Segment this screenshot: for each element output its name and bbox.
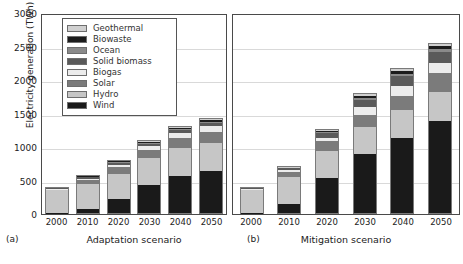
stacked-bar: [315, 129, 339, 214]
bar-group: [353, 15, 377, 214]
bar-segment-hydro: [429, 92, 451, 121]
bar-segment-hydro: [200, 143, 222, 171]
x-tick-label: 2020: [315, 217, 339, 229]
panel-a-title: Adaptation scenario: [41, 234, 227, 245]
x-tick-label: 2030: [138, 217, 162, 229]
bar-segment-solar: [391, 96, 413, 110]
bar-segment-solar: [354, 115, 376, 127]
bar-group: [240, 15, 264, 214]
bar-segment-biogas: [354, 107, 376, 115]
bar-segment-hydro: [169, 148, 191, 176]
legend-swatch-icon: [67, 25, 87, 32]
x-tick-label: 2050: [429, 217, 453, 229]
stacked-bar: [277, 166, 301, 214]
bar-segment-hydro: [278, 177, 300, 204]
bar-segment-hydro: [316, 151, 338, 178]
stacked-bar: [240, 187, 264, 214]
stacked-bar: [107, 160, 131, 214]
bar-segment-hydro: [241, 190, 263, 213]
bar-group: [428, 15, 452, 214]
legend-swatch-icon: [67, 102, 87, 109]
y-tick-label: 2000: [3, 76, 37, 86]
bar-segment-solar: [169, 138, 191, 148]
y-tick-label: 0: [3, 210, 37, 220]
legend-label: Biowaste: [93, 34, 132, 45]
bar-segment-solar: [429, 73, 451, 92]
legend-swatch-icon: [67, 36, 87, 43]
figure-stacked-bar-chart: Electricity generation (TWh) 05001000150…: [0, 0, 463, 264]
legend-label: Hydro: [93, 89, 118, 100]
x-tick-label: 2000: [45, 217, 69, 229]
y-tick-label: 1000: [3, 143, 37, 153]
bar-group: [199, 15, 223, 214]
bar-segment-wind: [138, 185, 160, 213]
legend-label: Solar: [93, 78, 115, 89]
bar-segment-wind: [391, 138, 413, 213]
legend-item: Solid biomass: [67, 56, 171, 67]
bar-segment-solar: [200, 132, 222, 143]
x-tick-label: 2020: [107, 217, 131, 229]
legend-item: Wind: [67, 100, 171, 111]
x-tick-label: 2000: [239, 217, 263, 229]
x-tick-label: 2030: [353, 217, 377, 229]
panel-b-plot-area: [232, 14, 460, 215]
y-tick-label: 1500: [3, 110, 37, 120]
bar-segment-solar: [138, 150, 160, 158]
panel-a-x-axis-ticks: 200020102020203020402050: [41, 217, 227, 229]
stacked-bar: [137, 140, 161, 214]
y-tick-label: 500: [3, 177, 37, 187]
stacked-bar: [390, 68, 414, 214]
stacked-bar: [168, 126, 192, 214]
bar-group: [390, 15, 414, 214]
stacked-bar: [199, 118, 223, 214]
bar-segment-hydro: [108, 174, 130, 200]
stacked-bar: [76, 175, 100, 214]
x-tick-label: 2010: [76, 217, 100, 229]
bar-segment-hydro: [138, 158, 160, 185]
bar-segment-hydro: [46, 190, 68, 213]
legend-swatch-icon: [67, 80, 87, 87]
y-tick-label: 3000: [3, 9, 37, 19]
x-tick-label: 2010: [277, 217, 301, 229]
bar-segment-wind: [77, 209, 99, 213]
stacked-bar: [45, 187, 69, 214]
legend-label: Geothermal: [93, 23, 143, 34]
panel-a-tag: (a): [6, 234, 19, 244]
legend-label: Solid biomass: [93, 56, 152, 67]
bar-segment-wind: [429, 121, 451, 213]
bar-segment-solid-biomass: [429, 52, 451, 63]
legend-label: Biogas: [93, 67, 121, 78]
legend-item: Biogas: [67, 67, 171, 78]
legend-label: Wind: [93, 100, 114, 111]
legend-swatch-icon: [67, 58, 87, 65]
stacked-bar: [428, 43, 452, 214]
panel-b-x-axis-ticks: 200020102020203020402050: [232, 217, 460, 229]
y-axis-ticks: 050010001500200025003000: [0, 0, 37, 264]
stacked-bar: [353, 93, 377, 214]
bar-segment-hydro: [391, 110, 413, 138]
legend-item: Biowaste: [67, 34, 171, 45]
bar-group: [277, 15, 301, 214]
bar-segment-wind: [278, 204, 300, 213]
legend-item: Ocean: [67, 45, 171, 56]
y-tick-label: 2500: [3, 43, 37, 53]
bar-segment-wind: [200, 171, 222, 213]
legend-swatch-icon: [67, 69, 87, 76]
x-tick-label: 2040: [169, 217, 193, 229]
bar-segment-solid-biomass: [391, 76, 413, 86]
legend-label: Ocean: [93, 45, 120, 56]
panel-b-bars: [233, 15, 459, 214]
bar-group: [315, 15, 339, 214]
bar-segment-solar: [316, 141, 338, 151]
bar-segment-wind: [169, 176, 191, 213]
bar-segment-solid-biomass: [354, 100, 376, 107]
chart-legend: GeothermalBiowasteOceanSolid biomassBiog…: [62, 18, 177, 116]
legend-swatch-icon: [67, 47, 87, 54]
bar-segment-wind: [316, 178, 338, 213]
panel-b-title: Mitigation scenario: [232, 234, 460, 245]
bar-segment-wind: [354, 154, 376, 213]
legend-item: Geothermal: [67, 23, 171, 34]
bar-segment-wind: [108, 199, 130, 213]
bar-segment-hydro: [77, 184, 99, 209]
legend-swatch-icon: [67, 91, 87, 98]
